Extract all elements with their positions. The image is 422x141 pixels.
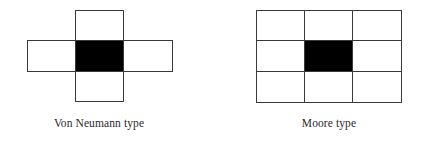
von-neumann-label: Von Neumann type (54, 117, 144, 129)
neighbor-cell (256, 40, 305, 72)
moore-label: Moore type (302, 117, 356, 129)
neighbor-cell (256, 71, 305, 103)
neighbor-cell (304, 71, 353, 103)
neighbor-cell (352, 71, 402, 103)
neighbor-cell (352, 40, 402, 72)
neighbor-cell (27, 40, 76, 72)
neighbor-cell (123, 40, 173, 72)
neighbor-cell (352, 10, 402, 41)
neighbor-cell (75, 71, 124, 102)
center-cell (304, 40, 353, 72)
neighbor-cell (256, 10, 305, 41)
center-cell (75, 40, 124, 72)
neighbor-cell (75, 10, 124, 41)
neighbor-cell (304, 10, 353, 41)
